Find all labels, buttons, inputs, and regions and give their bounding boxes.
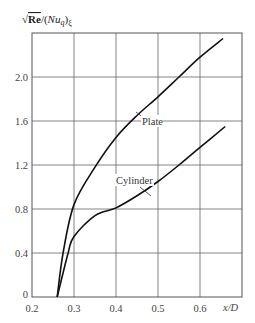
y-tick-label: 2.0 — [15, 72, 28, 83]
x-tick-labels: 0.20.30.40.50.6 — [25, 303, 206, 314]
grid — [32, 33, 242, 297]
x-tick-label: 0.4 — [109, 303, 123, 314]
y-tick-label: 0 — [23, 289, 28, 300]
y-tick-label: 1.2 — [15, 160, 28, 171]
y-axis-label: √Re/(Nuq)ξ — [22, 13, 72, 28]
cylinder-label: Cylinder — [116, 175, 153, 186]
y-tick-label: 0.4 — [15, 248, 29, 259]
x-tick-label: 0.5 — [151, 303, 164, 314]
x-tick-label: 0.2 — [25, 303, 38, 314]
y-tick-label: 1.6 — [15, 116, 28, 127]
y-tick-label: 0.8 — [15, 204, 28, 215]
plate-label: Plate — [142, 116, 163, 127]
x-axis-label: x/D — [222, 302, 239, 313]
x-tick-label: 0.6 — [193, 303, 206, 314]
y-tick-labels: 00.40.81.21.62.0 — [15, 72, 29, 300]
x-tick-label: 0.3 — [67, 303, 80, 314]
chart: 00.40.81.21.62.0 0.20.30.40.50.6 Cylinde… — [0, 0, 255, 323]
